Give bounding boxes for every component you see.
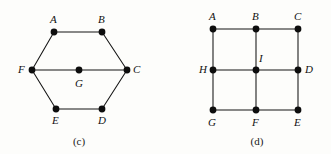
graph-vertex-f (253, 107, 260, 114)
graph-vertex-e (295, 107, 302, 114)
vertex-label-c: C (294, 11, 301, 22)
vertex-label-i: I (259, 53, 263, 64)
graph-vertex-d (295, 67, 302, 74)
graph-vertex-a (210, 26, 217, 33)
vertex-label-e: E (294, 117, 301, 128)
graph-vertex-g (210, 107, 217, 114)
graph-vertex-i (253, 67, 260, 74)
graph-vertex-b (253, 26, 260, 33)
vertex-label-d: D (305, 64, 313, 75)
diagram-canvas: (c) ABCDEFG (d) ABCDEFGHI (0, 0, 331, 154)
vertex-label-f: F (252, 117, 259, 128)
vertex-label-b: B (252, 11, 259, 22)
graph-vertex-c (295, 26, 302, 33)
graph-vertex-h (210, 67, 217, 74)
vertex-label-a: A (209, 11, 216, 22)
vertex-label-g: G (208, 117, 216, 128)
figure-d-graph (0, 0, 331, 154)
figure-d-caption: (d) (242, 136, 272, 147)
vertex-label-h: H (199, 64, 207, 75)
figure-d-container: (d) ABCDEFGHI (0, 0, 331, 154)
